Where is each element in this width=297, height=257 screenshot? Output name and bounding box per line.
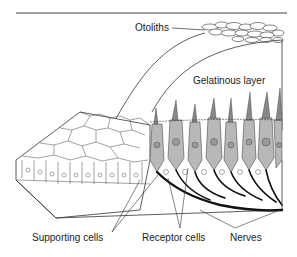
label-otoliths: Otoliths xyxy=(135,22,169,33)
label-nerves: Nerves xyxy=(230,232,262,243)
otolith-organ-illustration xyxy=(0,0,297,257)
label-receptor-cells: Receptor cells xyxy=(142,232,205,243)
nerve-fibers xyxy=(157,170,282,210)
otoliths-leader-line xyxy=(172,28,205,30)
tissue-block xyxy=(16,112,282,218)
receptor-cells xyxy=(150,88,282,175)
label-gelatinous-layer: Gelatinous layer xyxy=(193,75,265,86)
label-supporting-cells: Supporting cells xyxy=(32,232,103,243)
otolith-crystals xyxy=(202,22,284,43)
